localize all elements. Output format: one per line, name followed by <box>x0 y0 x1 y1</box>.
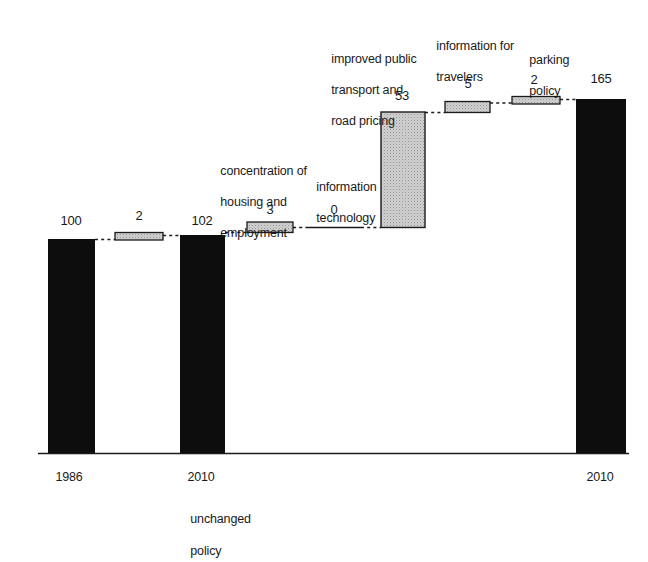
axis-sublabel-line1: unchanged <box>190 512 251 526</box>
category-label-information-technology-line1: information <box>316 180 376 194</box>
category-label-information-technology: information technology <box>303 164 376 242</box>
bar-total-2010-unchanged <box>180 235 225 453</box>
bar-total-2010-final <box>576 99 626 453</box>
category-label-travelers: information for travelers <box>423 23 514 101</box>
category-label-parking-line2: policy <box>529 84 560 98</box>
axis-tick-2010-final: 2010 <box>586 470 613 486</box>
category-label-transport: improved public transport and road prici… <box>318 36 417 145</box>
value-label-2-first: 2 <box>135 208 142 224</box>
axis-tick-2010-unchanged: 2010 <box>187 470 214 486</box>
bar-increment-2a <box>115 233 163 241</box>
category-label-transport-line2: transport and <box>331 83 403 97</box>
category-label-concentration-line1: concentration of <box>220 164 307 178</box>
category-label-parking-line1: parking <box>529 53 569 67</box>
category-label-parking: parking policy <box>516 37 569 115</box>
category-label-transport-line1: improved public <box>331 52 416 66</box>
bar-increment-travelers <box>445 102 490 113</box>
value-label-165: 165 <box>590 71 611 87</box>
category-label-travelers-line1: information for <box>436 39 514 53</box>
category-label-concentration-line3: employment <box>220 226 287 240</box>
axis-tick-1986: 1986 <box>55 470 82 486</box>
category-label-concentration-line2: housing and <box>220 195 286 209</box>
category-label-concentration: concentration of housing and employment <box>207 148 307 257</box>
value-label-100: 100 <box>60 213 81 229</box>
axis-sublabel-line2: policy <box>190 544 221 558</box>
category-label-information-technology-line2: technology <box>316 211 375 225</box>
category-label-transport-line3: road pricing <box>331 114 395 128</box>
category-label-travelers-line2: travelers <box>436 70 483 84</box>
bar-total-1986 <box>48 239 95 453</box>
axis-tick-2010-unchanged-sublabel: unchanged policy <box>177 495 251 562</box>
